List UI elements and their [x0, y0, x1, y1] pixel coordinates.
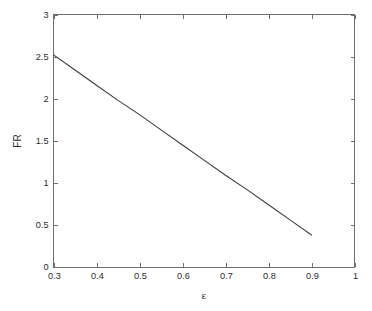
x-tick-label: 0.3 [48, 272, 61, 281]
y-axis-label: FR [13, 134, 23, 147]
x-axis-label: ε [202, 291, 206, 301]
x-tick-label: 0.5 [134, 272, 147, 281]
plot-area [0, 0, 372, 311]
y-tick-label: 2.5 [36, 53, 49, 62]
y-tick-label: 0 [43, 263, 48, 272]
x-tick-label: 0.7 [220, 272, 233, 281]
axes-box [54, 15, 355, 268]
x-tick-label: 0.9 [306, 272, 319, 281]
x-tick-label: 0.8 [263, 272, 276, 281]
data-series-group [54, 55, 312, 235]
figure-canvas: 0.30.40.50.60.70.80.91 00.511.522.53 ε F… [0, 0, 372, 311]
x-tick-label: 0.4 [91, 272, 104, 281]
x-axis-ticks [55, 15, 356, 268]
y-tick-label: 3 [43, 11, 48, 20]
x-tick-label: 1 [353, 272, 358, 281]
x-tick-label: 0.6 [177, 272, 190, 281]
y-tick-label: 0.5 [36, 221, 49, 230]
y-tick-label: 1.5 [36, 137, 49, 146]
y-axis-ticks [54, 16, 355, 268]
data-line-0 [54, 55, 312, 235]
y-tick-label: 2 [43, 95, 48, 104]
y-tick-label: 1 [43, 179, 48, 188]
